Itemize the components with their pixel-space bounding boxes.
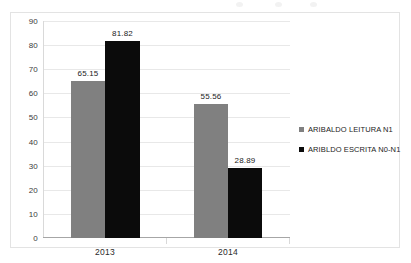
x-axis-tick <box>166 238 167 244</box>
x-axis-category-labels: 2013 2014 <box>43 245 290 259</box>
x-axis-tick <box>289 238 290 244</box>
y-axis-tick-label: 60 <box>12 89 38 98</box>
chart-legend: ARIBALDO LEITURA N1 ARIBLDO ESCRITA N0-N… <box>299 125 399 165</box>
y-axis-tick-label: 20 <box>12 185 38 194</box>
bar-2013-leitura[interactable] <box>71 81 105 238</box>
y-axis-tick-labels: 90 80 70 60 50 40 30 20 10 0 <box>11 21 38 238</box>
bar-2014-leitura[interactable] <box>194 104 228 238</box>
legend-swatch-icon <box>299 127 304 132</box>
y-axis-line <box>43 21 44 238</box>
legend-item-label: ARIBALDO LEITURA N1 <box>308 125 393 134</box>
scan-artifact-strip <box>0 0 411 10</box>
y-axis-tick-label: 30 <box>12 161 38 170</box>
gridline <box>43 21 290 22</box>
y-axis-tick-label: 50 <box>12 113 38 122</box>
legend-item-escrita[interactable]: ARIBLDO ESCRITA N0-N1 <box>299 145 399 154</box>
bar-2014-escrita[interactable] <box>228 168 262 238</box>
y-axis-tick-label: 10 <box>12 209 38 218</box>
x-axis-category-2013: 2013 <box>95 247 115 257</box>
legend-item-leitura[interactable]: ARIBALDO LEITURA N1 <box>299 125 399 134</box>
y-axis-tick-label: 0 <box>12 234 38 243</box>
legend-swatch-icon <box>299 147 304 152</box>
bar-value-label: 81.82 <box>112 29 133 38</box>
bar-value-label: 65.15 <box>77 69 98 78</box>
y-axis-tick-label: 80 <box>12 41 38 50</box>
plot-area: 65.15 81.82 55.56 28.89 <box>43 21 290 238</box>
y-axis-tick-label: 90 <box>12 17 38 26</box>
chart-container: 90 80 70 60 50 40 30 20 10 0 65.15 81.82… <box>10 12 400 248</box>
y-axis-tick-label: 70 <box>12 65 38 74</box>
bar-value-label: 28.89 <box>234 156 255 165</box>
gridline <box>43 45 290 46</box>
bar-2013-escrita[interactable] <box>105 41 140 238</box>
y-axis-tick-label: 40 <box>12 137 38 146</box>
legend-item-label: ARIBLDO ESCRITA N0-N1 <box>308 145 400 154</box>
bar-value-label: 55.56 <box>200 92 221 101</box>
x-axis-category-2014: 2014 <box>218 247 238 257</box>
